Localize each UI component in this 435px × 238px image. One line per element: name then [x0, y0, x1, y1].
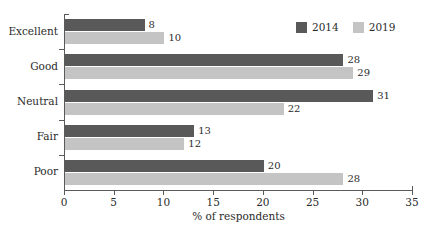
- x-axis-tick: [313, 190, 314, 195]
- x-axis-line: [64, 190, 413, 191]
- bar-excellent-2019[interactable]: [65, 32, 164, 44]
- bar-value-label: 29: [357, 67, 370, 78]
- legend-label: 2019: [369, 21, 396, 33]
- bar-poor-2014[interactable]: [65, 160, 264, 172]
- x-axis-tick-label: 25: [306, 196, 319, 208]
- y-axis-tick: [59, 84, 65, 85]
- legend-label: 2014: [312, 21, 339, 33]
- x-axis-tick-label: 15: [206, 196, 219, 208]
- y-axis-tick: [59, 120, 65, 121]
- x-axis-tick-label: 35: [405, 196, 418, 208]
- x-axis-title: % of respondents: [64, 210, 413, 222]
- bar-value-label: 12: [188, 138, 201, 149]
- bar-neutral-2019[interactable]: [65, 103, 284, 115]
- bar-fair-2019[interactable]: [65, 138, 184, 150]
- x-axis-tick: [412, 190, 413, 195]
- y-axis-top-cap: [64, 14, 69, 15]
- category-label-poor: Poor: [0, 165, 58, 177]
- x-axis-tick: [263, 190, 264, 195]
- x-axis-tick-label: 10: [157, 196, 170, 208]
- bar-value-label: 28: [347, 54, 360, 65]
- x-axis-tick-label: 5: [110, 196, 117, 208]
- x-axis-tick-label: 0: [61, 196, 68, 208]
- bar-chart: 05101520253035Excellent810Good2829Neutra…: [0, 0, 435, 238]
- x-axis-tick: [114, 190, 115, 195]
- x-axis-tick-label: 30: [356, 196, 369, 208]
- bar-value-label: 20: [268, 160, 281, 171]
- y-axis-tick: [59, 155, 65, 156]
- bar-value-label: 8: [149, 19, 155, 30]
- bar-fair-2014[interactable]: [65, 125, 194, 137]
- x-axis-tick: [64, 190, 65, 195]
- legend-swatch-icon: [353, 22, 364, 33]
- x-axis-tick: [213, 190, 214, 195]
- legend-item-2019[interactable]: 2019: [353, 21, 396, 33]
- legend-swatch-icon: [296, 22, 307, 33]
- bar-value-label: 31: [377, 90, 390, 101]
- category-label-excellent: Excellent: [0, 25, 58, 37]
- bar-value-label: 13: [198, 125, 211, 136]
- bar-good-2014[interactable]: [65, 54, 343, 66]
- bar-poor-2019[interactable]: [65, 173, 343, 185]
- y-axis-tick: [59, 49, 65, 50]
- legend: 2014 2019: [296, 21, 395, 33]
- bar-value-label: 22: [288, 103, 301, 114]
- bar-value-label: 28: [347, 173, 360, 184]
- x-axis-tick: [362, 190, 363, 195]
- bar-excellent-2014[interactable]: [65, 19, 145, 31]
- category-label-fair: Fair: [0, 130, 58, 142]
- bar-neutral-2014[interactable]: [65, 90, 373, 102]
- category-label-good: Good: [0, 60, 58, 72]
- bar-good-2019[interactable]: [65, 67, 353, 79]
- category-label-neutral: Neutral: [0, 95, 58, 107]
- x-axis-tick-label: 20: [256, 196, 269, 208]
- bar-value-label: 10: [168, 32, 181, 43]
- x-axis-tick: [163, 190, 164, 195]
- legend-item-2014[interactable]: 2014: [296, 21, 339, 33]
